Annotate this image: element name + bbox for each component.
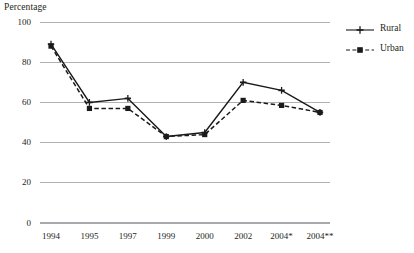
- data-point-marker: [279, 103, 284, 108]
- x-axis-tick-label: 2004*: [270, 232, 293, 241]
- y-axis-tick-label: 80: [5, 58, 31, 67]
- legend-swatch-solid-plus-icon: [345, 22, 375, 34]
- chart-legend: Rural Urban: [345, 18, 413, 58]
- x-axis-tick-label: 1995: [80, 232, 98, 241]
- legend-label-rural: Rural: [375, 23, 401, 33]
- chart-container: Percentage 020406080100 1994199519971999…: [0, 0, 414, 253]
- x-axis-tick-label: 2004**: [307, 232, 334, 241]
- y-axis-tick-label: 60: [5, 98, 31, 107]
- x-axis-tick-label: 2002: [234, 232, 252, 241]
- data-point-marker: [125, 106, 130, 111]
- series-line-urban: [51, 46, 320, 136]
- x-axis-tick-label: 1997: [119, 232, 137, 241]
- data-point-marker: [317, 110, 322, 115]
- x-axis-tick-label: 1999: [157, 232, 175, 241]
- y-axis-tick-label: 0: [5, 219, 31, 228]
- legend-item-urban: Urban: [345, 38, 413, 58]
- x-axis-tick-label: 2000: [196, 232, 214, 241]
- x-axis-tick-label: 1994: [42, 232, 60, 241]
- series-lines: [48, 41, 323, 140]
- legend-item-rural: Rural: [345, 18, 413, 38]
- legend-label-urban: Urban: [375, 43, 404, 53]
- data-point-marker: [164, 134, 169, 139]
- data-point-marker: [48, 44, 53, 49]
- y-axis-tick-label: 20: [5, 178, 31, 187]
- data-point-marker: [87, 106, 92, 111]
- y-axis-tick-label: 40: [5, 138, 31, 147]
- legend-swatch-dashed-square-icon: [345, 42, 375, 54]
- y-axis-tick-label: 100: [5, 18, 31, 27]
- gridlines: [40, 22, 330, 223]
- data-point-marker: [241, 98, 246, 103]
- data-point-marker: [202, 132, 207, 137]
